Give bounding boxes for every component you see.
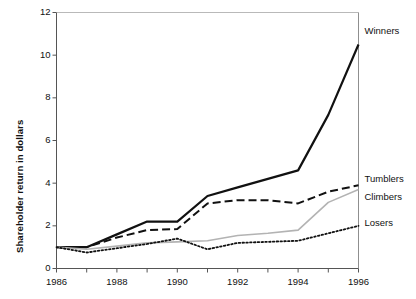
y-tick-label: 8 (29, 91, 51, 102)
series-lines (57, 45, 359, 253)
y-tick-label: 12 (29, 6, 51, 17)
y-axis-title: Shareholder return in dollars (14, 120, 25, 253)
y-tick-label: 2 (29, 219, 51, 230)
plot-area (0, 0, 416, 299)
y-tick-label: 0 (29, 262, 51, 273)
y-tick-label: 10 (29, 49, 51, 60)
series-label-winners: Winners (365, 25, 400, 36)
x-tick-label: 1986 (37, 276, 77, 287)
y-tick-label: 4 (29, 177, 51, 188)
x-tick-label: 1996 (339, 276, 379, 287)
x-tick-label: 1992 (218, 276, 258, 287)
series-label-tumblers: Tumblers (365, 173, 404, 184)
series-label-losers: Losers (365, 217, 394, 228)
x-tick-label: 1994 (278, 276, 318, 287)
y-tick-label: 6 (29, 134, 51, 145)
x-tick-label: 1990 (157, 276, 197, 287)
shareholder-return-line-chart: Shareholder return in dollars 024681012 … (0, 0, 416, 299)
x-tick-label: 1988 (97, 276, 137, 287)
series-label-climbers: Climbers (365, 191, 402, 202)
